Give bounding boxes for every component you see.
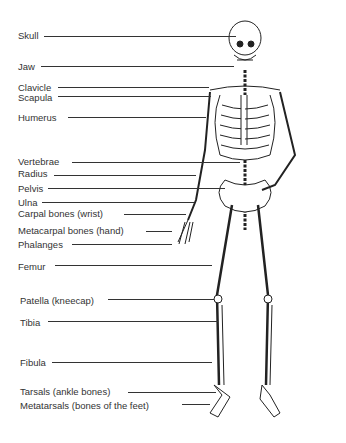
label-fibula: Fibula <box>20 358 46 368</box>
label-radius: Radius <box>18 169 48 179</box>
leader-line-carpal <box>124 214 186 215</box>
label-skull: Skull <box>18 31 39 41</box>
label-carpal: Carpal bones (wrist) <box>18 209 103 219</box>
leader-line-patella <box>108 299 214 300</box>
label-metacarpal: Metacarpal bones (hand) <box>18 226 124 236</box>
label-metatarsals: Metatarsals (bones of the feet) <box>20 401 149 411</box>
label-femur: Femur <box>18 262 45 272</box>
leader-line-jaw <box>41 66 234 67</box>
label-pelvis: Pelvis <box>18 184 43 194</box>
leader-line-phalanges <box>72 244 172 245</box>
label-tarsals: Tarsals (ankle bones) <box>20 387 110 397</box>
label-tibia: Tibia <box>20 318 40 328</box>
leader-line-clavicle <box>58 87 209 88</box>
leader-line-humerus <box>68 117 206 118</box>
label-ulna: Ulna <box>18 198 38 208</box>
leader-line-femur <box>55 265 212 266</box>
leader-line-skull <box>44 36 236 37</box>
label-vertebrae: Vertebrae <box>18 157 59 167</box>
leader-line-scapula <box>58 96 211 97</box>
label-humerus: Humerus <box>18 113 57 123</box>
leader-line-radius <box>54 175 196 176</box>
leader-line-pelvis <box>48 188 225 189</box>
leader-line-fibula <box>52 362 212 363</box>
label-patella: Patella (kneecap) <box>20 296 94 306</box>
leader-line-tarsals <box>128 392 216 393</box>
label-jaw: Jaw <box>18 62 35 72</box>
label-phalanges: Phalanges <box>18 240 63 250</box>
leader-line-tibia <box>48 321 218 322</box>
leader-line-metacarpal <box>146 231 172 232</box>
label-scapula: Scapula <box>18 93 52 103</box>
leader-line-ulna <box>42 202 194 203</box>
leader-line-vertebrae <box>72 162 240 163</box>
leader-line-metatarsals <box>182 404 210 405</box>
